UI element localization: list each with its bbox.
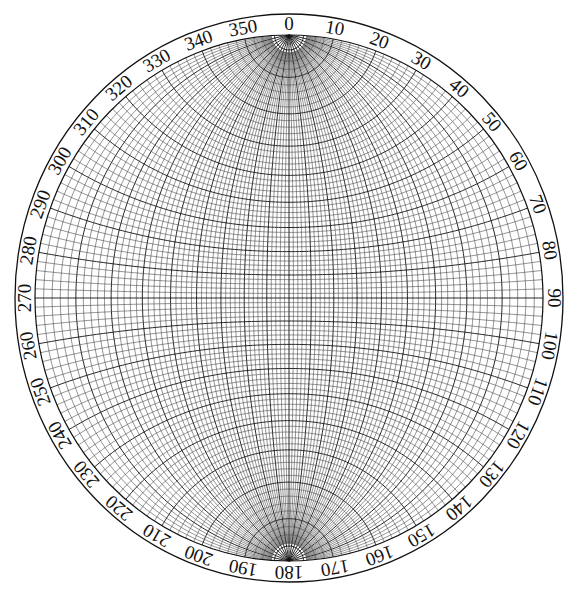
azimuth-label-50: 50 bbox=[478, 108, 506, 136]
stereonet-grid bbox=[35, 35, 543, 561]
azimuth-label-160: 160 bbox=[363, 541, 397, 570]
azimuth-label-90: 90 bbox=[544, 289, 565, 308]
azimuth-label-150: 150 bbox=[404, 519, 439, 551]
azimuth-label-30: 30 bbox=[408, 46, 435, 74]
azimuth-label-270: 270 bbox=[14, 284, 35, 313]
azimuth-label-230: 230 bbox=[69, 457, 103, 492]
azimuth-label-330: 330 bbox=[139, 44, 174, 76]
azimuth-label-40: 40 bbox=[445, 74, 473, 102]
azimuth-label-240: 240 bbox=[43, 418, 75, 453]
azimuth-label-110: 110 bbox=[523, 375, 552, 408]
azimuth-label-200: 200 bbox=[181, 541, 215, 570]
azimuth-label-80: 80 bbox=[538, 239, 562, 261]
azimuth-label-180: 180 bbox=[275, 562, 304, 583]
azimuth-label-340: 340 bbox=[181, 25, 215, 54]
azimuth-label-10: 10 bbox=[324, 16, 346, 40]
azimuth-label-130: 130 bbox=[475, 457, 509, 492]
azimuth-label-210: 210 bbox=[139, 519, 174, 551]
azimuth-label-290: 290 bbox=[25, 187, 54, 221]
azimuth-label-350: 350 bbox=[227, 15, 259, 41]
azimuth-label-250: 250 bbox=[25, 375, 54, 409]
azimuth-label-120: 120 bbox=[502, 418, 534, 453]
azimuth-label-60: 60 bbox=[505, 147, 533, 174]
wulff-net: 0102030405060708090100110120130140150160… bbox=[0, 0, 575, 602]
azimuth-label-170: 170 bbox=[319, 555, 351, 581]
azimuth-label-190: 190 bbox=[227, 555, 259, 581]
azimuth-label-300: 300 bbox=[43, 143, 75, 178]
azimuth-label-310: 310 bbox=[69, 104, 103, 139]
azimuth-label-0: 0 bbox=[284, 13, 294, 34]
